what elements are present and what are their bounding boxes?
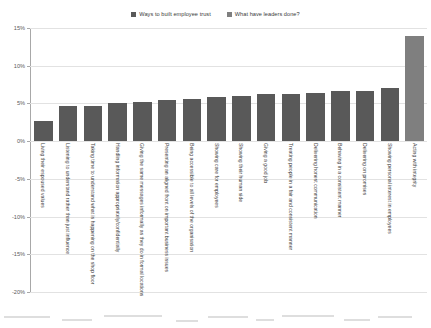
legend-entry-series-1[interactable]: Ways to built employee trust [131,11,210,17]
x-category-label[interactable]: Acting with integrity [411,143,416,187]
legend-label: What have leaders done? [235,11,300,17]
x-category-label[interactable]: Living their espoused values [40,143,45,208]
y-tick-mark [27,103,30,104]
x-category-label[interactable]: Taking time to understand what is happen… [89,143,94,284]
scan-artifact [62,319,92,321]
bar[interactable] [183,99,201,141]
x-category-label[interactable]: Being accessible to all levels of the or… [188,143,193,252]
bar[interactable] [133,102,151,141]
y-tick-label: 5% [17,100,25,106]
bar[interactable] [207,97,225,141]
scan-artifact [208,316,248,318]
legend-swatch-icon [227,12,232,17]
y-tick-mark [27,141,30,142]
legend-swatch-icon [131,12,136,17]
x-category-label[interactable]: Giving a good job [263,143,268,183]
scan-artifact [282,315,334,317]
x-category-label[interactable]: Handling information appropriately/confi… [114,143,119,252]
x-category-label[interactable]: Delivering on promises [362,143,367,195]
bar[interactable] [108,103,126,141]
x-category-label[interactable]: Behaving in a consistent manner [337,143,342,218]
y-tick-label: 10% [14,63,25,69]
y-tick-label: 15% [14,25,25,31]
scan-artifact [104,315,162,317]
bar[interactable] [282,94,300,142]
bar[interactable] [306,93,324,141]
bar[interactable] [331,91,349,141]
y-tick-label: -5% [15,176,25,182]
x-category-label[interactable]: Showing their human side [238,143,243,202]
scan-artifact [176,320,198,322]
legend-label: Ways to built employee trust [139,11,210,17]
bar[interactable] [381,88,399,141]
plot-area: 15%10%5%0%-5%-10%-15%-20% Living their e… [30,28,427,292]
y-tick-label: -10% [12,214,25,220]
bar[interactable] [34,121,52,141]
y-tick-mark [27,254,30,255]
y-tick-mark [27,292,30,293]
x-category-label[interactable]: Showing care for employees [213,143,218,208]
x-category-label[interactable]: Delivering honest communication [312,143,317,219]
y-tick-mark [27,217,30,218]
scan-artifact [344,319,370,321]
bar[interactable] [59,106,77,141]
x-category-label[interactable]: Showing personal interest in employees [386,143,391,234]
y-tick-mark [27,66,30,67]
y-tick-label: 0% [17,138,25,144]
x-category-label[interactable]: Presenting an aligned front on important… [164,143,169,272]
scan-artifact [256,319,274,321]
legend-entry-series-2[interactable]: What have leaders done? [227,11,300,17]
y-tick-mark [27,179,30,180]
chart-legend: Ways to built employee trust What have l… [0,11,431,17]
bar-chart: Ways to built employee trust What have l… [0,0,431,328]
bar[interactable] [257,94,275,141]
scan-artifact [4,316,50,318]
bar[interactable] [158,100,176,141]
bar[interactable] [356,91,374,142]
x-category-label[interactable]: Treating people in a fair and consistent… [287,143,292,250]
bar[interactable] [405,36,423,141]
y-tick-label: -20% [12,289,25,295]
bar[interactable] [84,106,102,141]
bar[interactable] [232,96,250,141]
gridline [30,292,427,293]
y-tick-label: -15% [12,251,25,257]
x-category-label[interactable]: Listening to understand rather than just… [65,143,70,254]
x-category-label[interactable]: Giving the same messages informally as t… [139,143,144,296]
y-tick-mark [27,28,30,29]
scan-artifact-strip [0,310,431,328]
scan-artifact [378,316,412,318]
